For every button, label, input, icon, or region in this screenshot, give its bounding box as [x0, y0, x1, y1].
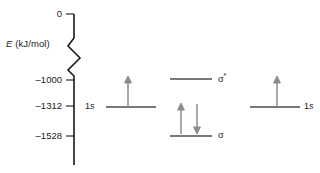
mo-energy-diagram: E (kJ/mol) 0 –1000 –1312 –1528 1s σ* σ 1…	[0, 0, 320, 173]
label-left-1s-orbital: s	[90, 101, 95, 111]
label-right-1s-orbital: s	[309, 101, 314, 111]
axis-title-unit: (kJ/mol)	[12, 38, 49, 49]
arrow-up-right-1s	[274, 76, 281, 107]
arrow-up-sigma	[178, 103, 185, 134]
label-sigma-star: σ*	[218, 72, 226, 84]
label-sigma: σ	[218, 130, 224, 140]
arrow-down-sigma	[194, 104, 201, 134]
energy-axis	[68, 14, 80, 165]
level-lines	[106, 79, 300, 136]
tick-label-0: 0	[14, 8, 62, 19]
label-sigma-star-asterisk: *	[224, 72, 227, 79]
label-sigma-base: σ	[218, 130, 224, 140]
label-left-1s: 1s	[85, 101, 95, 111]
axis-title: E (kJ/mol)	[6, 38, 50, 49]
electron-arrows	[125, 76, 281, 134]
diagram-canvas	[0, 0, 320, 173]
arrow-up-left-1s	[125, 76, 132, 107]
tick-label-minus-1312: –1312	[14, 100, 62, 111]
tick-label-minus-1000: –1000	[14, 74, 62, 85]
label-right-1s: 1s	[304, 101, 314, 111]
tick-label-minus-1528: –1528	[14, 130, 62, 141]
